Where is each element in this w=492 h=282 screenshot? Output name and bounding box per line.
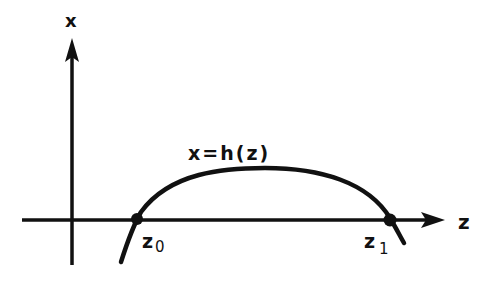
point-z0-label: z0 (142, 230, 165, 252)
diagram-graphics (0, 0, 492, 282)
diagram-canvas: x z x=h(z) z0 z1 (0, 0, 492, 282)
curve-label: x=h(z) (188, 142, 270, 164)
point-z0 (131, 213, 143, 225)
point-z0-label-base: z (142, 230, 153, 252)
point-z0-label-sub: 0 (155, 238, 165, 256)
horizontal-axis-label: z (458, 210, 470, 234)
vertical-axis-label: x (65, 10, 77, 31)
point-z1-label-sub: 1 (379, 240, 389, 258)
point-z1-label: z1 (364, 230, 389, 252)
point-z1 (384, 214, 397, 227)
point-z1-label-base: z (364, 230, 375, 252)
